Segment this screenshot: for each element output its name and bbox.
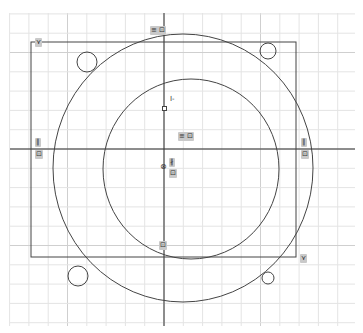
hole-top-right[interactable] bbox=[260, 43, 276, 59]
fix-constraint-left[interactable]: ⊡ bbox=[35, 150, 43, 159]
vertical-constraint-center[interactable]: ∦ bbox=[169, 158, 175, 167]
corner-constraint-top-left[interactable]: ⋎ bbox=[35, 38, 42, 47]
sketch-point[interactable] bbox=[162, 106, 167, 111]
point-label: I- bbox=[170, 95, 175, 103]
inner-circle[interactable] bbox=[103, 79, 279, 259]
fix-constraint-center[interactable]: ⊡ bbox=[169, 169, 177, 178]
hole-bottom-left[interactable] bbox=[68, 266, 88, 286]
fix-constraint-bottom[interactable]: ⊡ bbox=[159, 241, 167, 250]
constraint-tag-top[interactable]: ≡ ⊡ bbox=[150, 26, 166, 35]
corner-constraint-bottom-right[interactable]: ⋎ bbox=[300, 254, 307, 263]
constraint-tag-center[interactable]: ≡ ⊡ bbox=[178, 132, 194, 141]
fix-constraint-right[interactable]: ⊡ bbox=[301, 150, 309, 159]
parallel-constraint-left[interactable]: ∥ bbox=[35, 138, 41, 147]
hole-bottom-right[interactable] bbox=[262, 272, 274, 284]
origin-marker-icon[interactable]: ⊗ bbox=[160, 163, 167, 171]
sketch-canvas[interactable] bbox=[0, 0, 363, 333]
parallel-constraint-right[interactable]: ∥ bbox=[301, 138, 307, 147]
